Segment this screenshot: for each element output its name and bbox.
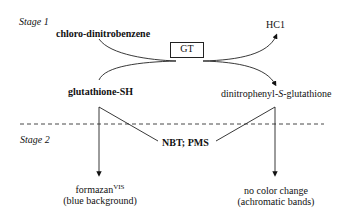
hcl-arrow [203,36,276,61]
product-dinitrophenyl-s-glutathione: dinitrophenyl-S-glutathione [221,88,332,99]
substrate2-curve [99,61,176,80]
substrate-chloro-dinitrobenzene: chloro-dinitrobenzene [56,28,150,39]
product-hcl: HC1 [266,19,285,30]
substrate-glutathione-sh: glutathione-SH [68,86,133,97]
enzyme-label: GT [180,43,193,54]
result-formazan: formazanVIS (blue background) [55,184,145,206]
product-arrow [203,61,275,84]
reagents-nbt-pms: NBT; PMS [162,137,209,148]
substrate1-curve [99,39,176,61]
result-no-color-change: no color change (achromatic bands) [228,185,324,207]
stage1-label: Stage 1 [19,16,49,27]
reaction-diagram-lines [0,0,352,214]
enzyme-gt-box: GT [170,42,204,58]
stage2-label: Stage 2 [20,134,50,145]
